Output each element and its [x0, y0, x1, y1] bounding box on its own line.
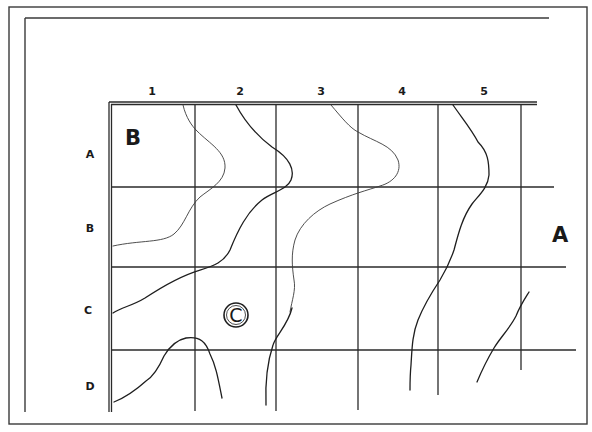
region-label-c: C	[229, 304, 242, 326]
contour-curve-3	[290, 105, 399, 312]
contour-curve-6	[114, 338, 222, 402]
row-label-b: B	[86, 222, 94, 235]
outer-frame	[9, 7, 587, 424]
region-label-b: B	[125, 126, 141, 150]
row-label-d: D	[85, 380, 94, 393]
contour-lines	[113, 105, 529, 405]
column-label-5: 5	[480, 85, 488, 98]
grid	[109, 102, 576, 412]
inner-border	[25, 18, 549, 412]
column-label-3: 3	[317, 85, 325, 98]
region-label-c-circled: C	[224, 303, 248, 327]
column-label-2: 2	[236, 85, 244, 98]
contour-curve-4	[410, 105, 489, 390]
row-labels: A B C D	[84, 148, 95, 393]
contour-curve-3b	[266, 308, 292, 405]
column-label-4: 4	[398, 85, 406, 98]
region-label-a: A	[552, 223, 569, 247]
row-label-c: C	[84, 304, 92, 317]
row-label-a: A	[86, 148, 95, 161]
column-labels: 1 2 3 4 5	[148, 85, 488, 98]
grid-contour-diagram: 1 2 3 4 5 A B C D B A C	[0, 0, 592, 432]
column-label-1: 1	[148, 85, 156, 98]
